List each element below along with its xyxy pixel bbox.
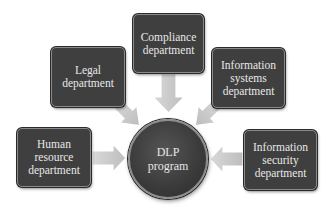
node-label-line: Legal [62,64,114,77]
center-label-line: DLP [157,145,180,159]
node-human-resource-department: Human resource department [17,128,91,187]
node-information-security-department: Information security department [244,130,317,190]
node-label-line: systems [221,72,276,85]
node-label-line: department [221,85,276,98]
center-label-line: program [148,159,189,173]
node-information-systems-department: Information systems department [212,48,285,108]
node-compliance-department: Compliance department [133,14,204,73]
node-label-line: security [253,154,308,167]
node-label-line: department [253,167,308,180]
node-label-line: resource [28,151,80,164]
node-label-line: department [141,44,197,57]
arrow-human-resource-to-dlp [92,144,126,172]
node-label-line: Compliance [141,31,197,44]
node-label-line: department [62,77,114,90]
arrow-information-security-to-dlp [210,145,243,173]
node-label-line: department [28,164,80,177]
node-label-line: Information [221,59,276,72]
arrow-compliance-to-dlp [153,74,184,113]
node-label-line: Human [28,138,80,151]
node-label-line: Information [253,141,308,154]
dlp-program-center-node: DLP program [128,119,208,199]
node-legal-department: Legal department [51,47,125,107]
